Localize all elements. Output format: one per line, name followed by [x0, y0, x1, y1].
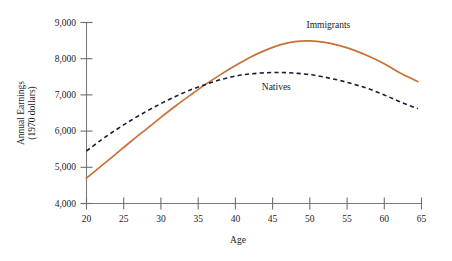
immigrants-curve	[87, 41, 418, 178]
x-tick-label-40: 40	[231, 214, 241, 224]
y-axis-title: Annual Earnings (1970 dollars)	[16, 81, 38, 145]
x-tick-label-65: 65	[417, 214, 427, 224]
y-axis-title-line2: (1970 dollars)	[27, 86, 38, 140]
y-tick-label-6000: 6,000	[55, 126, 77, 136]
x-axis-title: Age	[230, 235, 246, 245]
y-tick-label-5000: 5,000	[55, 162, 77, 172]
chart-svg: 4,000 5,000 6,000 7,000 8,000 9,000 20 2…	[0, 0, 452, 261]
y-tick-label-9000: 9,000	[55, 18, 77, 28]
x-tick-label-50: 50	[305, 214, 315, 224]
x-tick-label-60: 60	[380, 214, 390, 224]
x-tick-label-35: 35	[193, 214, 203, 224]
y-axis-title-line1: Annual Earnings	[16, 81, 26, 145]
y-axis-tick-labels: 4,000 5,000 6,000 7,000 8,000 9,000	[55, 18, 77, 209]
x-tick-label-25: 25	[119, 214, 129, 224]
natives-curve	[87, 72, 418, 151]
x-tick-label-45: 45	[268, 214, 278, 224]
x-axis-tick-labels: 20 25 30 35 40 45 50 55 60 65	[82, 214, 427, 224]
x-tick-label-20: 20	[82, 214, 92, 224]
immigrants-label: Immigrants	[306, 20, 350, 30]
x-tick-label-55: 55	[342, 214, 352, 224]
y-tick-label-4000: 4,000	[55, 199, 77, 209]
y-tick-label-8000: 8,000	[55, 54, 77, 64]
x-tick-label-30: 30	[156, 214, 166, 224]
natives-label: Natives	[262, 82, 291, 92]
y-tick-label-7000: 7,000	[55, 90, 77, 100]
earnings-age-profile-chart: 4,000 5,000 6,000 7,000 8,000 9,000 20 2…	[0, 0, 452, 261]
